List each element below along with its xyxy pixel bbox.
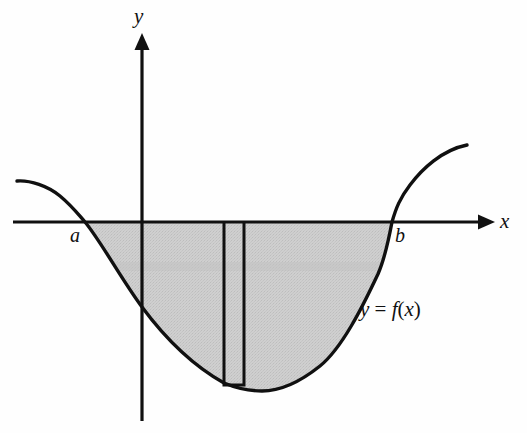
curve-label-paren-close: ) [414,297,421,321]
y-axis-arrowhead-icon [135,33,150,50]
integral-figure: y x a b y = f(x) [0,0,527,433]
scan-band-artifact [85,262,392,271]
y-axis-label: y [134,4,143,29]
curve-equation-label: y = f(x) [360,297,421,322]
curve-label-paren-open: ( [398,297,405,321]
x-axis-arrowhead-icon [478,215,495,230]
integral-area-fill [85,222,392,391]
x-axis-label: x [500,209,509,234]
figure-canvas [0,0,527,433]
curve-label-eq-sign: = [375,297,387,321]
lower-limit-label: a [70,224,80,247]
curve-label-y: y [360,297,369,321]
shaded-region [85,222,392,391]
curve-label-variable: x [405,297,414,321]
upper-limit-label: b [395,224,405,247]
